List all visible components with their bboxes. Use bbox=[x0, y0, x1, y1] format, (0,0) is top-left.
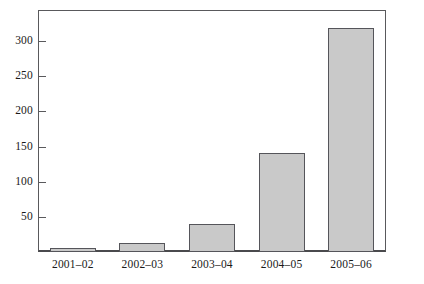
bar-2003-04[interactable] bbox=[189, 224, 235, 252]
bar-2004-05[interactable] bbox=[259, 153, 305, 252]
y-axis-tick-100 bbox=[38, 182, 46, 183]
x-axis-label-2004-05: 2004–05 bbox=[242, 258, 322, 270]
y-axis-label-200: 200 bbox=[3, 105, 33, 117]
bar-2005-06[interactable] bbox=[328, 28, 374, 252]
x-axis-label-2002-03: 2002–03 bbox=[102, 258, 182, 270]
y-axis-label-150: 150 bbox=[3, 141, 33, 153]
y-axis-labels: 300 250 200 150 100 50 bbox=[0, 0, 33, 284]
y-axis-label-250: 250 bbox=[3, 70, 33, 82]
y-axis-tick-250 bbox=[38, 76, 46, 77]
y-axis-label-300: 300 bbox=[3, 35, 33, 47]
y-axis-tick-300 bbox=[38, 41, 46, 42]
x-axis-label-2005-06: 2005–06 bbox=[311, 258, 391, 270]
y-axis-tick-50 bbox=[38, 217, 46, 218]
x-axis-label-2003-04: 2003–04 bbox=[172, 258, 252, 270]
bar-chart: 300 250 200 150 100 50 2001–02 2002–03 2… bbox=[0, 0, 424, 284]
bar-2002-03[interactable] bbox=[119, 243, 165, 252]
y-axis-label-50: 50 bbox=[3, 211, 33, 223]
bar-2001-02[interactable] bbox=[50, 248, 96, 252]
y-axis-tick-200 bbox=[38, 111, 46, 112]
y-axis-tick-150 bbox=[38, 147, 46, 148]
x-axis-label-2001-02: 2001–02 bbox=[33, 258, 113, 270]
y-axis-label-100: 100 bbox=[3, 176, 33, 188]
